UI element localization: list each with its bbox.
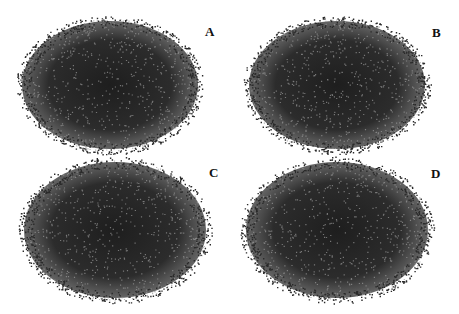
network-graph-d	[0, 0, 459, 314]
panel-label-d: D	[431, 166, 440, 182]
panel-d: D	[0, 0, 459, 314]
